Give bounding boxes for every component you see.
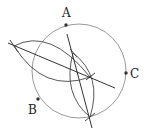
construction-arc-right xyxy=(73,53,94,117)
circumscribed-circle xyxy=(32,24,126,118)
construction-diagram: A B C xyxy=(0,0,148,132)
construction-arc-upper xyxy=(14,41,90,77)
label-a: A xyxy=(61,6,71,20)
label-b: B xyxy=(28,103,37,117)
point-b xyxy=(36,97,39,100)
point-c xyxy=(124,71,127,74)
point-a xyxy=(64,23,67,26)
label-c: C xyxy=(130,67,139,81)
